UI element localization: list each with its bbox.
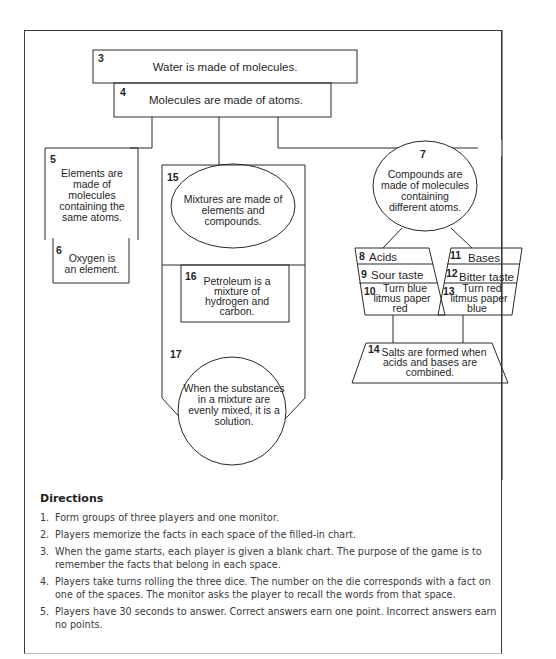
- connector-7-bases: [451, 228, 472, 248]
- fact-14: Salts are formed when acids and bases ar…: [381, 346, 486, 378]
- label-3: 3: [98, 52, 104, 64]
- svg-text:blue: blue: [467, 302, 487, 314]
- direction-item: 3.When the game starts, each player is g…: [40, 545, 500, 572]
- fact-15: Mixtures are made of elements and compou…: [184, 193, 283, 227]
- label-14: 14: [368, 343, 380, 355]
- label-6: 6: [56, 244, 62, 256]
- directions-section: Directions 1.Form groups of three player…: [40, 492, 500, 635]
- label-8: 8: [359, 250, 365, 262]
- label-11: 11: [450, 249, 461, 261]
- connector-7-acids: [383, 228, 402, 248]
- fact-5: Elements are made of molecules containin…: [59, 167, 125, 223]
- directions-list: 1.Form groups of three players and one m…: [40, 511, 500, 631]
- svg-text:different atoms.: different atoms.: [389, 201, 461, 213]
- fact-4: Molecules are made of atoms.: [149, 94, 303, 106]
- svg-text:an element.: an element.: [65, 263, 120, 275]
- label-9: 9: [361, 268, 367, 280]
- svg-text:compounds.: compounds.: [204, 215, 261, 227]
- label-12: 12: [446, 267, 458, 279]
- label-4: 4: [120, 86, 126, 98]
- svg-text:combined.: combined.: [406, 366, 454, 378]
- connector-4-5: [130, 117, 152, 148]
- direction-item: 4.Players take turns rolling the three d…: [40, 575, 500, 602]
- direction-item: 2.Players memorize the facts in each spa…: [40, 528, 500, 541]
- label-16: 16: [185, 270, 197, 282]
- concept-diagram: 3 Water is made of molecules. 4 Molecule…: [0, 0, 556, 480]
- svg-text:solution.: solution.: [214, 415, 253, 427]
- direction-item: 5.Players have 30 seconds to answer. Cor…: [40, 605, 500, 632]
- fact-9: Sour taste: [371, 269, 423, 281]
- directions-heading: Directions: [40, 492, 500, 505]
- direction-item: 1.Form groups of three players and one m…: [40, 511, 500, 524]
- fact-10: Turn blue litmus paper red: [373, 282, 431, 314]
- fact-11: Bases: [468, 252, 500, 264]
- svg-text:carbon.: carbon.: [219, 305, 254, 317]
- label-5: 5: [50, 153, 56, 165]
- fact-3: Water is made of molecules.: [153, 61, 298, 73]
- fact-16: Petroleum is a mixture of hydrogen and c…: [203, 275, 270, 317]
- connector-4-7: [278, 117, 502, 148]
- fact-13: Turn red litmus paper blue: [450, 282, 508, 314]
- label-7: 7: [420, 148, 426, 160]
- label-17: 17: [170, 348, 182, 360]
- fact-8: Acids: [369, 251, 397, 263]
- fact-6: Oxygen is an element.: [65, 252, 120, 275]
- label-15: 15: [167, 171, 179, 183]
- fact-7: Compounds are made of molecules containi…: [381, 168, 469, 213]
- svg-text:same atoms.: same atoms.: [62, 211, 122, 223]
- svg-text:red: red: [392, 302, 407, 314]
